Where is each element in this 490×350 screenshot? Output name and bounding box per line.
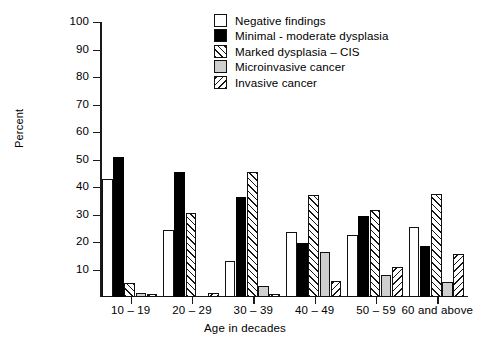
bar-chart-figure: Percent 102030405060708090100 10 – 1920 … xyxy=(0,0,490,350)
y-tick-label: 50 xyxy=(76,154,89,166)
x-tick-label: 50 – 59 xyxy=(356,304,395,316)
bar-group xyxy=(100,22,161,297)
y-tick xyxy=(93,132,100,133)
y-tick xyxy=(93,160,100,161)
legend-label: Invasive cancer xyxy=(235,76,317,89)
legend-label: Negative findings xyxy=(235,14,326,27)
y-tick-label: 20 xyxy=(76,236,89,248)
bar xyxy=(358,216,369,297)
x-tick xyxy=(376,297,377,304)
bar xyxy=(136,293,147,297)
bar xyxy=(247,172,258,297)
bar xyxy=(258,286,269,297)
x-tick-label: 40 – 49 xyxy=(295,304,334,316)
y-tick xyxy=(93,22,100,23)
y-tick-label: 10 xyxy=(76,264,89,276)
bar-group xyxy=(407,22,468,297)
y-axis-title: Percent xyxy=(13,109,25,148)
legend-swatch-icon xyxy=(214,29,227,42)
bar xyxy=(236,197,247,297)
y-tick-label: 90 xyxy=(76,44,89,56)
legend-swatch-icon xyxy=(214,14,227,27)
bar xyxy=(102,179,113,297)
legend-swatch-icon xyxy=(214,45,227,58)
bar xyxy=(308,195,319,297)
legend-swatch-icon xyxy=(214,76,227,89)
legend-swatch-icon xyxy=(214,60,227,73)
x-tick xyxy=(315,297,316,304)
bar xyxy=(347,235,358,297)
y-tick xyxy=(93,215,100,216)
bar xyxy=(186,213,197,297)
x-tick-label: 10 – 19 xyxy=(111,304,150,316)
bar xyxy=(370,210,381,297)
x-tick-label: 30 – 39 xyxy=(234,304,273,316)
legend-item: Minimal - moderate dysplasia xyxy=(214,29,389,42)
y-tick-label: 30 xyxy=(76,209,89,221)
y-tick-label: 70 xyxy=(76,99,89,111)
x-tick xyxy=(253,297,254,304)
bar xyxy=(174,172,185,297)
y-tick xyxy=(93,187,100,188)
legend-label: Marked dysplasia – CIS xyxy=(235,45,360,58)
bar xyxy=(409,227,420,297)
legend-label: Microinvasive cancer xyxy=(235,60,345,73)
chart-legend: Negative findingsMinimal - moderate dysp… xyxy=(214,14,389,89)
x-axis-title: Age in decades xyxy=(0,322,490,334)
legend-label: Minimal - moderate dysplasia xyxy=(235,29,389,42)
bar xyxy=(442,282,453,297)
bar xyxy=(453,254,464,297)
bar xyxy=(163,230,174,297)
x-tick xyxy=(131,297,132,304)
x-tick xyxy=(192,297,193,304)
y-tick-label: 80 xyxy=(76,71,89,83)
bar xyxy=(392,267,403,297)
bar xyxy=(269,294,280,297)
bar xyxy=(331,281,342,298)
x-tick-label: 20 – 29 xyxy=(172,304,211,316)
y-tick xyxy=(93,270,100,271)
y-tick xyxy=(93,242,100,243)
bar xyxy=(124,283,135,297)
bar xyxy=(381,275,392,297)
y-tick xyxy=(93,77,100,78)
bar xyxy=(320,252,331,297)
legend-item: Marked dysplasia – CIS xyxy=(214,45,389,58)
legend-item: Negative findings xyxy=(214,14,389,27)
bar xyxy=(225,261,236,297)
bar xyxy=(420,246,431,297)
y-tick xyxy=(93,105,100,106)
bar xyxy=(286,232,297,297)
x-tick xyxy=(437,297,438,304)
bar xyxy=(297,243,308,297)
y-tick xyxy=(93,50,100,51)
bar xyxy=(147,294,158,297)
legend-item: Invasive cancer xyxy=(214,76,389,89)
y-tick-label: 40 xyxy=(76,181,89,193)
x-tick-label: 60 and above xyxy=(402,304,474,316)
bar xyxy=(113,157,124,297)
legend-item: Microinvasive cancer xyxy=(214,60,389,73)
bar xyxy=(431,194,442,297)
y-tick-label: 100 xyxy=(70,16,90,28)
bar xyxy=(208,293,219,297)
y-tick-label: 60 xyxy=(76,126,89,138)
